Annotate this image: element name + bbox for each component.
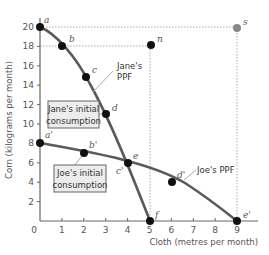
point-b [58,42,66,50]
jane-ppf-label-2: PPF [117,72,132,82]
y-tick-label: 2 [28,197,34,207]
svg-text:b': b' [89,140,97,150]
joe-ppf-leader [184,170,196,180]
y-tick-label: 12 [23,100,34,110]
point-b-prime [80,149,88,157]
y-tick-label: 16 [23,61,35,71]
x-tick-label: 6 [169,225,175,235]
joe-ppf-label: Joe's PPF [196,165,235,175]
svg-text:n: n [157,34,163,44]
jane-ppf-label: Jane's [116,61,143,71]
svg-text:e': e' [243,210,251,220]
svg-text:e: e [133,151,138,161]
point-d [102,110,110,118]
svg-text:a: a [44,15,49,25]
svg-text:b: b [69,34,75,44]
x-tick-label: 2 [81,225,87,235]
svg-text:c: c [92,65,97,75]
y-tick-label: 10 [23,119,35,129]
jane-initial-consumption-box: Jane's initial consumption [46,101,101,128]
svg-text:Jane's initial: Jane's initial [47,104,99,114]
x-tick-label: 1 [59,225,65,235]
svg-text:consumption: consumption [46,116,101,126]
y-tick-label: 18 [23,41,35,51]
y-tick-label: 14 [23,80,35,90]
x-axis-title: Cloth (metres per month) [150,237,258,247]
x-tick-label: 5 [147,225,153,235]
x-tick-labels: 0 1 2 3 4 5 6 7 8 9 [31,225,240,235]
point-e [124,159,132,167]
x-tick-label: 4 [125,225,131,235]
svg-text:d: d [112,103,118,113]
y-tick-label: 6 [28,158,34,168]
svg-text:c': c' [116,166,124,176]
point-e-prime [233,217,241,225]
y-tick-label: 8 [28,138,34,148]
svg-text:a': a' [45,130,53,140]
svg-text:consumption: consumption [52,180,107,190]
y-axis-title: Corn (kilograms per month) [4,61,14,179]
joe-initial-consumption-box: Joe's initial consumption [52,165,107,192]
point-n [147,41,155,49]
y-tick-label: 20 [23,22,35,32]
svg-text:Joe's initial: Joe's initial [56,168,103,178]
x-tick-label: 3 [103,225,109,235]
point-s [233,24,241,32]
svg-text:s: s [243,17,248,27]
point-a [36,23,44,31]
point-f [146,217,154,225]
point-d-prime [168,178,176,186]
x-tick-label: 9 [234,225,240,235]
x-tick-label: 0 [31,225,37,235]
x-tick-label: 7 [190,225,196,235]
y-tick-label: 4 [28,177,34,187]
point-a-prime [36,139,44,147]
y-tick-labels: 2 4 6 8 10 12 14 16 18 20 [23,22,35,207]
ppf-chart: 2 4 6 8 10 12 14 16 18 20 0 1 2 3 4 5 6 … [0,0,269,255]
x-tick-label: 8 [212,225,218,235]
svg-text:f: f [154,210,160,220]
svg-text:d': d' [177,170,185,180]
point-c [82,73,90,81]
